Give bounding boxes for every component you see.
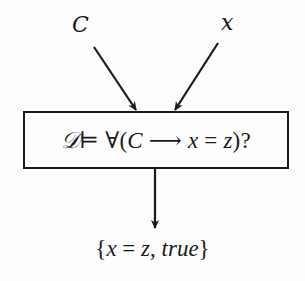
diagram-canvas: C x 𝒟⊨ ∀(C ⟶ x = z)? {x = z, true} [0,0,305,281]
forall-symbol: ∀ [105,128,119,153]
implies-arrow: ⟶ [149,128,182,153]
output-equals: = [122,236,135,261]
close-brace: } [199,236,210,261]
equals-sign: = [204,128,217,153]
output-value-true: true [162,236,199,261]
var-x: x [188,128,198,153]
output-var-x: x [106,236,116,261]
edge-x-to-query [175,43,218,110]
input-node-c: C [72,14,89,36]
var-z: z [223,128,232,153]
input-node-x: x [221,12,233,34]
output-node: {x = z, true} [0,236,305,262]
edge-c-to-query [94,47,136,110]
open-brace: { [95,236,106,261]
antecedent-c: C [127,128,143,153]
output-var-z: z [141,236,150,261]
close-question: )? [233,128,251,153]
entails-symbol: ⊨ [79,128,99,153]
query-node-box: 𝒟⊨ ∀(C ⟶ x = z)? [23,111,289,169]
domain-symbol: 𝒟 [61,127,79,153]
output-comma: , [150,236,156,261]
query-formula: 𝒟⊨ ∀(C ⟶ x = z)? [61,127,251,154]
